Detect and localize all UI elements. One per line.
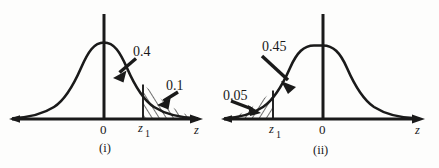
- panel-i-cutoff-label-sub: 1: [145, 128, 150, 139]
- panel-ii-cutoff-label-z: z: [268, 122, 274, 136]
- panel-ii-x-axis-label: z: [414, 123, 420, 137]
- panel-i: 0.4 0.1 0 z 1 z (i): [9, 14, 203, 155]
- panel-ii: 0.45 0.05 z 1 0 z (ii): [221, 14, 425, 157]
- panel-i-origin-label: 0: [100, 122, 107, 137]
- panel-i-cutoff-label-z: z: [137, 121, 143, 135]
- figure-canvas: 0.4 0.1 0 z 1 z (i): [0, 0, 439, 168]
- panel-i-label-0-1: 0.1: [166, 78, 184, 93]
- panel-i-x-axis-label: z: [193, 123, 199, 137]
- panel-i-label-0-4: 0.4: [133, 44, 151, 59]
- panel-ii-cutoff-label-sub: 1: [276, 129, 281, 140]
- panel-ii-caption: (ii): [313, 143, 328, 157]
- panel-i-caption: (i): [99, 141, 111, 155]
- panel-ii-label-0-05: 0.05: [223, 88, 248, 103]
- panel-ii-origin-label: 0: [319, 122, 326, 137]
- panel-ii-cutoff-label: z 1: [268, 122, 281, 140]
- panel-i-cutoff-label: z 1: [137, 121, 150, 139]
- normal-distribution-figure: 0.4 0.1 0 z 1 z (i): [0, 0, 439, 168]
- panel-ii-label-0-45: 0.45: [262, 39, 287, 54]
